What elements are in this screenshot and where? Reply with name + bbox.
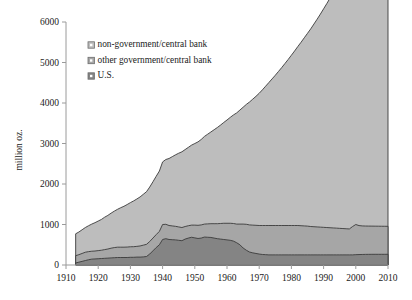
x-tick-label: 1930 [121, 273, 140, 283]
x-tick-label: 2010 [379, 273, 398, 283]
y-tick-label: 2000 [40, 179, 59, 189]
legend-label: other government/central bank [98, 55, 212, 65]
y-axis-ticks: 0100020003000400050006000 [40, 17, 66, 270]
x-tick-label: 1950 [185, 273, 204, 283]
y-tick-label: 5000 [40, 58, 59, 68]
y-axis-label: million oz. [14, 129, 24, 170]
y-tick-label: 1000 [40, 220, 59, 230]
x-tick-label: 1920 [89, 273, 108, 283]
y-tick-label: 6000 [40, 17, 59, 27]
legend-swatch-inner [90, 59, 92, 61]
legend-swatch-inner [90, 44, 92, 46]
x-axis-ticks: 1910192019301940195019601970198019902000… [57, 265, 398, 283]
x-tick-label: 1990 [314, 273, 333, 283]
x-tick-label: 2000 [346, 273, 365, 283]
chart-legend: non-government/central bankother governm… [88, 39, 212, 80]
legend-label: U.S. [98, 70, 115, 80]
x-tick-label: 1940 [153, 273, 172, 283]
y-tick-label: 0 [54, 260, 59, 270]
x-tick-label: 1980 [282, 273, 301, 283]
x-tick-label: 1910 [57, 273, 76, 283]
y-tick-label: 4000 [40, 98, 59, 108]
y-tick-label: 3000 [40, 139, 59, 149]
x-tick-label: 1970 [250, 273, 269, 283]
stacked-area-chart: 1910192019301940195019601970198019902000… [0, 0, 412, 300]
x-tick-label: 1960 [218, 273, 237, 283]
legend-label: non-government/central bank [98, 39, 208, 49]
chart-canvas: 1910192019301940195019601970198019902000… [0, 0, 412, 300]
legend-swatch-inner [90, 75, 92, 77]
